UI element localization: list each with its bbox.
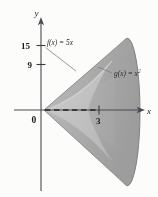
function-label-g-name: g(x) bbox=[114, 69, 126, 78]
revolved-solid-group bbox=[44, 38, 140, 186]
x-axis-label: x bbox=[146, 106, 151, 116]
x-tick-label-3: 3 bbox=[96, 116, 101, 126]
function-label-g-equals: = bbox=[126, 69, 135, 78]
function-label-f: f(x) = 5x bbox=[47, 38, 74, 47]
y-tick-label-9: 9 bbox=[28, 60, 33, 70]
y-axis-label: y bbox=[34, 8, 39, 18]
f-label-leader-line bbox=[46, 48, 77, 72]
function-label-f-expr: 5x bbox=[66, 38, 74, 47]
function-label-f-equals: = bbox=[57, 38, 66, 47]
function-label-g-exponent: 2 bbox=[138, 68, 141, 74]
origin-label: 0 bbox=[32, 115, 37, 125]
figure-canvas: y x 0 15 9 3 f(x) = 5x g(x) = x2 bbox=[0, 0, 158, 197]
y-tick-label-15: 15 bbox=[21, 41, 31, 51]
function-label-g: g(x) = x2 bbox=[114, 68, 141, 78]
solid-of-revolution-figure: y x 0 15 9 3 f(x) = 5x g(x) = x2 bbox=[0, 0, 158, 197]
function-label-f-name: f(x) bbox=[47, 38, 58, 47]
